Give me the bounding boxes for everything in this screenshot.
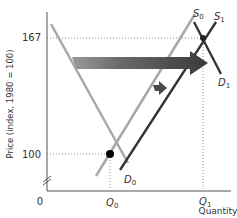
label-d0: D0 [124, 174, 136, 187]
small-shift-arrow [153, 81, 167, 95]
supply-curve-s1 [120, 22, 216, 170]
y-axis-label: Price (index, 1980 = 100) [5, 49, 15, 158]
origin-label: 0 [37, 196, 43, 207]
supply-demand-diagram: Price (index, 1980 = 100) 167 100 0 Q0 Q… [0, 0, 237, 218]
large-shift-arrow [72, 51, 208, 75]
x-tick-q0: Q0 [106, 197, 118, 210]
equilibrium-point-new [200, 35, 206, 41]
label-d1: D1 [218, 77, 230, 90]
y-tick-167: 167 [22, 32, 41, 43]
x-axis-label: Quantity [199, 206, 237, 216]
equilibrium-point-initial [106, 150, 114, 158]
label-s0: S0 [193, 8, 204, 21]
y-tick-100: 100 [22, 149, 41, 160]
